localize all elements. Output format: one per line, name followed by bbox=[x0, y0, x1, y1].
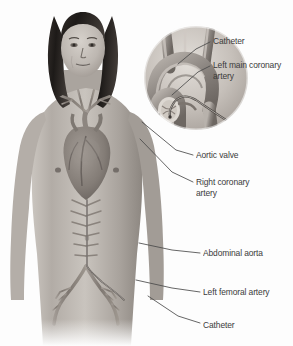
callout-label-right-coronary-artery: Right coronary artery bbox=[196, 177, 249, 199]
callout-label-left-femoral-artery: Left femoral artery bbox=[203, 287, 269, 298]
callout-label-catheter-arch: Catheter bbox=[213, 36, 245, 47]
anatomical-illustration: CatheterLeft main coronary arteryAortic … bbox=[0, 0, 293, 346]
callout-label-left-main-coronary-artery: Left main coronary artery bbox=[213, 60, 281, 82]
callout-label-aortic-valve: Aortic valve bbox=[196, 150, 238, 161]
callout-label-catheter-femoral: Catheter bbox=[203, 320, 235, 331]
callout-label-abdominal-aorta: Abdominal aorta bbox=[203, 248, 263, 259]
